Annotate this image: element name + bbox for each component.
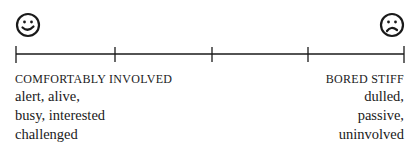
left-label-block: COMFORTABLY INVOLVED alert, alive, busy,… xyxy=(15,71,172,144)
right-desc-line: uninvolved xyxy=(326,125,404,144)
right-desc-line: passive, xyxy=(326,106,404,125)
left-heading: COMFORTABLY INVOLVED xyxy=(15,71,172,87)
right-label-block: BORED STIFF dulled, passive, uninvolved xyxy=(326,71,404,144)
left-desc-line: challenged xyxy=(15,125,172,144)
left-desc-line: alert, alive, xyxy=(15,87,172,106)
right-heading: BORED STIFF xyxy=(326,71,404,87)
involvement-scale xyxy=(0,0,416,70)
left-desc-line: busy, interested xyxy=(15,106,172,125)
right-desc-line: dulled, xyxy=(326,87,404,106)
